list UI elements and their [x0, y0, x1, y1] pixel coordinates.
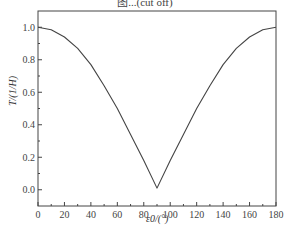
y-tick-label: 0.2 — [23, 152, 36, 163]
line-chart: 0204060801001201401601800.00.20.40.60.81… — [0, 0, 290, 237]
y-tick-label: 0.0 — [23, 184, 36, 195]
x-tick-label: 180 — [269, 209, 284, 220]
y-tick-label: 0.4 — [23, 119, 36, 130]
y-tick-label: 0.8 — [23, 54, 36, 65]
x-tick-label: 40 — [86, 209, 96, 220]
plot-frame — [38, 11, 276, 206]
data-line — [38, 27, 276, 188]
y-tick-label: 0.6 — [23, 87, 36, 98]
x-tick-label: 60 — [112, 209, 122, 220]
x-tick-label: 140 — [216, 209, 231, 220]
x-tick-label: 20 — [59, 209, 69, 220]
x-axis-label: ε0/(°) — [146, 213, 168, 224]
x-tick-label: 120 — [189, 209, 204, 220]
x-tick-label: 160 — [242, 209, 257, 220]
y-tick-label: 1.0 — [23, 22, 36, 33]
x-tick-label: 0 — [36, 209, 41, 220]
y-axis-label: T/(1/H) — [7, 76, 18, 106]
